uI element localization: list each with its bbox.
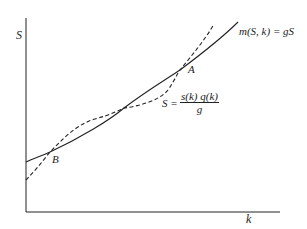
point-b-label: B (52, 153, 59, 165)
solid-curve-label: m(S, k) = gS (239, 25, 294, 37)
y-axis-label: S (16, 28, 22, 43)
dashed-curve-label-lhs: S = (162, 97, 178, 109)
x-axis-label: k (246, 212, 251, 227)
dashed-curve-fraction: s(k) q(k) g (180, 90, 219, 115)
point-a-label: A (188, 63, 195, 75)
fraction-numerator: s(k) q(k) (180, 90, 219, 103)
fraction-denominator: g (180, 103, 219, 115)
